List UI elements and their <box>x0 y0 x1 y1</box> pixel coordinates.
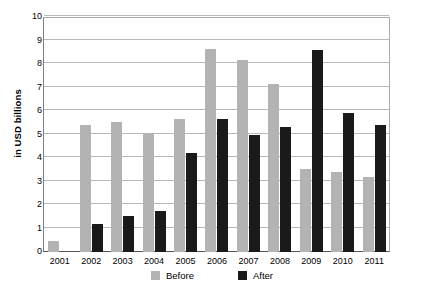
bar-group <box>170 17 201 252</box>
y-tick-label: 0 <box>20 247 42 256</box>
bar-group <box>264 17 295 252</box>
y-tick-label: 9 <box>20 36 42 45</box>
bar-before-2007[interactable] <box>237 60 248 252</box>
bar-after-2006[interactable] <box>217 119 228 252</box>
x-tick-label: 2007 <box>233 257 264 266</box>
bar-chart: in USD billions 012345678910 20012002200… <box>0 0 424 299</box>
bar-before-2001[interactable] <box>48 241 59 252</box>
bar-before-2010[interactable] <box>331 172 342 252</box>
bar-before-2006[interactable] <box>205 49 216 252</box>
x-tick-label: 2003 <box>107 257 138 266</box>
bar-after-2007[interactable] <box>249 135 260 253</box>
x-tick-label: 2010 <box>327 257 358 266</box>
bar-after-2004[interactable] <box>155 211 166 252</box>
bar-before-2009[interactable] <box>300 169 311 252</box>
bar-before-2008[interactable] <box>268 84 279 252</box>
y-tick-label: 5 <box>20 130 42 139</box>
y-tick-label: 4 <box>20 153 42 162</box>
x-tick-label: 2002 <box>75 257 106 266</box>
y-tick-label: 1 <box>20 224 42 233</box>
bar-after-2009[interactable] <box>312 50 323 252</box>
y-tick-label: 10 <box>20 12 42 21</box>
gridline-10 <box>44 15 389 16</box>
x-tick-label: 2004 <box>138 257 169 266</box>
chart-legend: BeforeAfter <box>0 271 424 281</box>
before-swatch-icon <box>151 271 160 280</box>
x-tick-label: 2001 <box>44 257 75 266</box>
bar-before-2005[interactable] <box>174 119 185 252</box>
legend-label: After <box>253 271 273 281</box>
x-tick-label: 2006 <box>201 257 232 266</box>
bar-after-2002[interactable] <box>92 224 103 252</box>
bar-group <box>327 17 358 252</box>
bar-group <box>201 17 232 252</box>
y-tick-label: 2 <box>20 200 42 209</box>
legend-item-after[interactable]: After <box>238 271 273 281</box>
after-swatch-icon <box>238 271 247 280</box>
bar-before-2004[interactable] <box>143 133 154 252</box>
bar-group <box>75 17 106 252</box>
y-tick-label: 8 <box>20 59 42 68</box>
bar-before-2002[interactable] <box>80 125 91 252</box>
bar-group <box>138 17 169 252</box>
bar-before-2003[interactable] <box>111 122 122 252</box>
bar-after-2011[interactable] <box>375 125 386 252</box>
y-tick-label: 6 <box>20 106 42 115</box>
x-tick-label: 2009 <box>296 257 327 266</box>
bar-before-2011[interactable] <box>363 177 374 252</box>
y-tick-label: 3 <box>20 177 42 186</box>
bar-group <box>233 17 264 252</box>
x-tick-label: 2011 <box>359 257 390 266</box>
bar-after-2005[interactable] <box>186 153 197 252</box>
bar-after-2003[interactable] <box>123 216 134 252</box>
bars-layer <box>44 17 390 252</box>
y-tick-label: 7 <box>20 83 42 92</box>
bar-after-2008[interactable] <box>280 127 291 252</box>
bar-group <box>359 17 390 252</box>
x-tick-label: 2008 <box>264 257 295 266</box>
legend-label: Before <box>166 271 194 281</box>
bar-group <box>296 17 327 252</box>
legend-item-before[interactable]: Before <box>151 271 194 281</box>
x-tick-label: 2005 <box>170 257 201 266</box>
bar-group <box>44 17 75 252</box>
bar-after-2010[interactable] <box>343 113 354 252</box>
bar-group <box>107 17 138 252</box>
